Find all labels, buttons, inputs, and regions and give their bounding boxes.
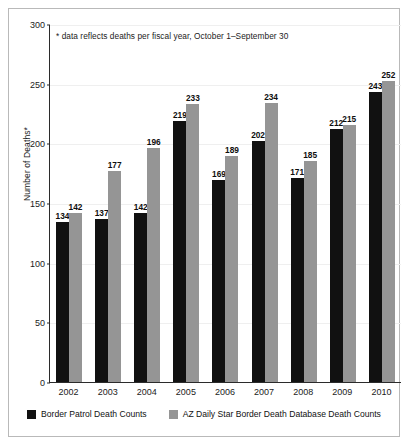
legend-item[interactable]: Border Patrol Death Counts [27,409,147,419]
bar-group: 137177 [89,25,128,382]
y-axis-tick-mark [47,383,50,384]
plot-area: 050100150200250300 134142137177142196219… [49,25,401,383]
y-axis-tick-label: 150 [30,199,45,209]
bar: 142 [134,213,147,382]
x-axis-tick-label: 2005 [166,387,205,397]
bar-value-label: 134 [56,211,70,221]
chart-figure: Number of Deaths* 050100150200250300 134… [8,8,400,437]
bar-value-label: 252 [381,70,395,80]
bar: 171 [291,178,304,382]
legend-swatch [169,410,178,419]
bar: 137 [95,219,108,382]
y-axis-tick-label: 50 [35,318,45,328]
chart-legend: Border Patrol Death CountsAZ Daily Star … [9,409,399,419]
bar: 177 [108,171,121,382]
bar: 215 [343,125,356,382]
bar: 252 [382,81,395,382]
bar-value-label: 142 [69,202,83,212]
x-axis-tick-label: 2008 [284,387,323,397]
bar-group: 171185 [285,25,324,382]
bar-value-label: 234 [264,92,278,102]
y-axis-title: Number of Deaths* [22,99,32,229]
bar-value-label: 219 [173,110,187,120]
bar: 234 [265,103,278,382]
bar-value-label: 189 [225,145,239,155]
bar-value-label: 171 [290,167,304,177]
y-axis-tick-label: 200 [30,139,45,149]
bar-value-label: 212 [329,118,343,128]
bar: 243 [369,92,382,382]
x-axis-tick-label: 2003 [88,387,127,397]
bar-group: 243252 [363,25,402,382]
x-axis-tick-label: 2006 [205,387,244,397]
bar-value-label: 142 [134,202,148,212]
bar-group: 134142 [50,25,89,382]
bar-value-label: 169 [212,169,226,179]
bar: 219 [173,121,186,382]
legend-swatch [27,410,36,419]
bar-value-label: 243 [368,81,382,91]
bar-value-label: 185 [303,150,317,160]
bar-group: 202234 [246,25,285,382]
bar-value-label: 196 [147,137,161,147]
bar-group: 212215 [324,25,363,382]
bar: 134 [56,222,69,382]
bar-group: 219233 [167,25,206,382]
bar-group: 142196 [128,25,167,382]
bar: 212 [330,129,343,382]
bar: 189 [225,156,238,382]
bar-group: 169189 [206,25,245,382]
x-axis-tick-label: 2009 [323,387,362,397]
y-axis-tick-label: 300 [30,20,45,30]
bar-value-label: 233 [186,93,200,103]
bar-value-label: 215 [342,114,356,124]
x-axis-tick-label: 2007 [245,387,284,397]
y-axis-tick-label: 0 [40,378,45,388]
x-axis-tick-label: 2004 [127,387,166,397]
bar-value-label: 177 [108,160,122,170]
legend-item[interactable]: AZ Daily Star Border Death Database Deat… [169,409,381,419]
bar-groups: 1341421371771421962192331691892022341711… [50,25,401,382]
bar: 233 [186,104,199,382]
x-axis-tick-label: 2002 [49,387,88,397]
bar: 169 [212,180,225,382]
bar: 202 [252,141,265,382]
x-axis-tick-labels: 200220032004200520062007200820092010 [49,387,401,403]
y-axis-tick-label: 250 [30,80,45,90]
bar: 196 [147,148,160,382]
x-axis-tick-label: 2010 [362,387,401,397]
bar: 185 [304,161,317,382]
bar-value-label: 137 [95,208,109,218]
bar-value-label: 202 [251,130,265,140]
bar: 142 [69,213,82,382]
y-axis-tick-label: 100 [30,259,45,269]
legend-label: AZ Daily Star Border Death Database Deat… [183,409,381,419]
footnote-annotation: * data reflects deaths per fiscal year, … [56,31,288,41]
legend-label: Border Patrol Death Counts [41,409,147,419]
